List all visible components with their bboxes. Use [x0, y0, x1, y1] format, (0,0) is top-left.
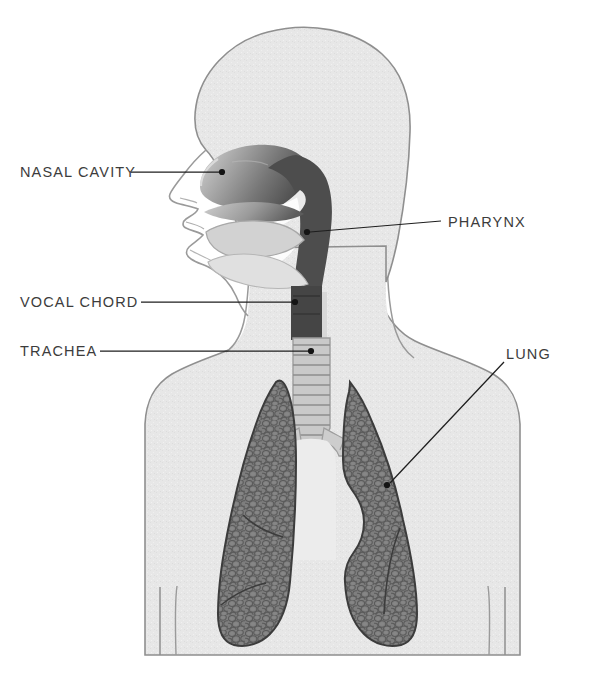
label-vocal-chord: VOCAL CHORD — [20, 295, 138, 310]
label-pharynx: PHARYNX — [448, 215, 526, 230]
dot-lung — [384, 482, 390, 488]
label-lung: LUNG — [506, 347, 551, 362]
diagram-canvas: NASAL CAVITY PHARYNX VOCAL CHORD TRACHEA… — [0, 0, 603, 683]
oral-cavity — [204, 202, 308, 289]
dot-nasal-cavity — [219, 169, 225, 175]
label-nasal-cavity: NASAL CAVITY — [20, 165, 136, 180]
larynx-vocal-chord — [291, 286, 327, 340]
dot-vocal-chord — [292, 299, 298, 305]
label-trachea: TRACHEA — [20, 344, 97, 359]
respiratory-system-figure — [0, 0, 603, 683]
dot-trachea — [308, 348, 314, 354]
dot-pharynx — [304, 229, 310, 235]
